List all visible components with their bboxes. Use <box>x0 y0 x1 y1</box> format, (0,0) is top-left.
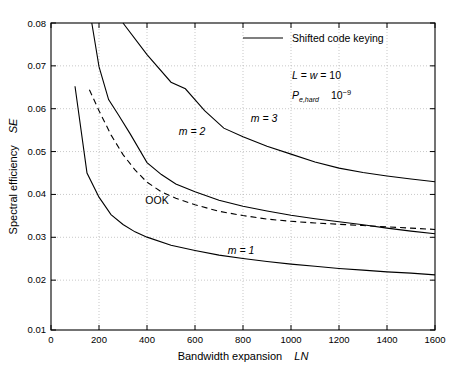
x-tick-label: 1400 <box>376 334 397 345</box>
x-axis-title-symbol: LN <box>294 350 308 362</box>
x-axis-title: Bandwidth expansion LN <box>178 350 309 362</box>
curve-label-m2: m = 2 <box>179 125 206 137</box>
spectral-efficiency-chart: 0.01 0.02 0.03 0.04 0.05 0.06 0.07 0.08 … <box>0 0 461 372</box>
x-tick-label: 1200 <box>328 334 349 345</box>
y-tick-label: 0.02 <box>28 274 47 285</box>
x-tick-label: 400 <box>139 334 155 345</box>
x-tick-label: 800 <box>235 334 251 345</box>
y-tick-labels: 0.01 0.02 0.03 0.04 0.05 0.06 0.07 0.08 <box>28 18 47 336</box>
y-axis-title: Spectral efficiency SE <box>7 118 19 234</box>
x-tick-label: 1000 <box>280 334 301 345</box>
legend-label-shifted-code-keying: Shifted code keying <box>292 32 384 44</box>
chart-figure: 0.01 0.02 0.03 0.04 0.05 0.06 0.07 0.08 … <box>0 0 461 372</box>
curve-label-m1: m = 1 <box>228 244 255 256</box>
x-tick-label: 200 <box>91 334 107 345</box>
x-tick-labels: 0 200 400 600 800 1000 1200 1400 1600 <box>48 334 445 345</box>
curve-label-ook: OOK <box>145 194 168 206</box>
curve-label-m3: m = 3 <box>251 112 278 124</box>
x-axis-title-main: Bandwidth expansion <box>178 350 283 362</box>
y-axis-title-symbol: SE <box>7 118 19 133</box>
y-tick-label: 0.08 <box>28 18 47 29</box>
x-tick-label: 1600 <box>424 334 445 345</box>
y-tick-label: 0.03 <box>28 231 47 242</box>
annotation-L-w: L = w = 10 <box>292 69 341 81</box>
x-tick-label: 0 <box>48 334 53 345</box>
y-tick-label: 0.06 <box>28 103 47 114</box>
y-tick-label: 0.04 <box>28 188 47 199</box>
x-tick-label: 600 <box>187 334 203 345</box>
y-tick-label: 0.05 <box>28 146 47 157</box>
y-axis-title-main: Spectral efficiency <box>7 145 19 235</box>
y-tick-label: 0.01 <box>28 324 47 335</box>
y-tick-label: 0.07 <box>28 60 47 71</box>
